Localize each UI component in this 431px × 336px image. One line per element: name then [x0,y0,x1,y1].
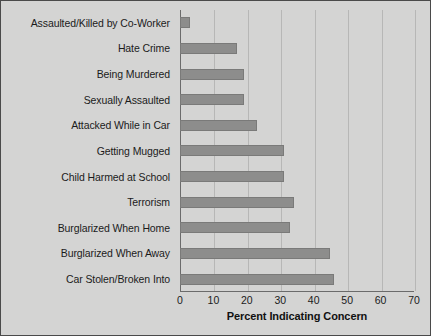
bar[interactable] [180,43,237,54]
bar-row [180,36,414,62]
category-label-row: Being Murdered [1,61,175,87]
x-tick-label: 50 [341,294,353,306]
category-label-row: Hate Crime [1,36,175,62]
category-label: Sexually Assaulted [84,94,170,106]
x-axis-tick-labels: 010203040506070 [180,294,414,310]
x-tick-label: 60 [375,294,387,306]
category-label: Being Murdered [97,68,170,80]
x-tick-label: 20 [241,294,253,306]
bar[interactable] [180,248,330,259]
bar-row [180,164,414,190]
category-axis-labels: Assaulted/Killed by Co-WorkerHate CrimeB… [1,10,175,292]
category-label: Hate Crime [118,42,170,54]
category-label-row: Terrorism [1,189,175,215]
x-tick-label: 70 [408,294,420,306]
bar-row [180,113,414,139]
category-label-row: Getting Mugged [1,138,175,164]
bar-row [180,215,414,241]
gridline-70 [415,10,416,291]
category-label: Getting Mugged [97,145,170,157]
category-label: Child Harmed at School [61,171,170,183]
bar[interactable] [180,197,294,208]
category-label-row: Burglarized When Away [1,241,175,267]
bar-row [180,241,414,267]
bar-row [180,138,414,164]
category-label: Car Stolen/Broken Into [66,273,170,285]
bar-row [180,10,414,36]
x-tick-label: 10 [208,294,220,306]
category-label-row: Assaulted/Killed by Co-Worker [1,10,175,36]
bar-chart-figure: Assaulted/Killed by Co-WorkerHate CrimeB… [0,0,431,336]
bars-container [180,10,414,292]
category-label-row: Child Harmed at School [1,164,175,190]
bar[interactable] [180,94,244,105]
bar[interactable] [180,145,284,156]
bar[interactable] [180,120,257,131]
category-label-row: Car Stolen/Broken Into [1,266,175,292]
x-axis-title: Percent Indicating Concern [180,310,414,322]
bar[interactable] [180,17,190,28]
x-tick-label: 0 [177,294,183,306]
category-label: Attacked While in Car [71,119,170,131]
bar-row [180,189,414,215]
x-tick-label: 30 [274,294,286,306]
bar[interactable] [180,274,334,285]
x-tick-label: 40 [308,294,320,306]
bar[interactable] [180,69,244,80]
category-label-row: Attacked While in Car [1,113,175,139]
bar-row [180,61,414,87]
category-label-row: Sexually Assaulted [1,87,175,113]
category-label: Burglarized When Away [61,247,170,259]
category-label: Terrorism [127,196,170,208]
bar-row [180,266,414,292]
bar-row [180,87,414,113]
bar[interactable] [180,222,290,233]
category-label: Assaulted/Killed by Co-Worker [31,17,170,29]
category-label-row: Burglarized When Home [1,215,175,241]
category-label: Burglarized When Home [58,222,170,234]
bar[interactable] [180,171,284,182]
